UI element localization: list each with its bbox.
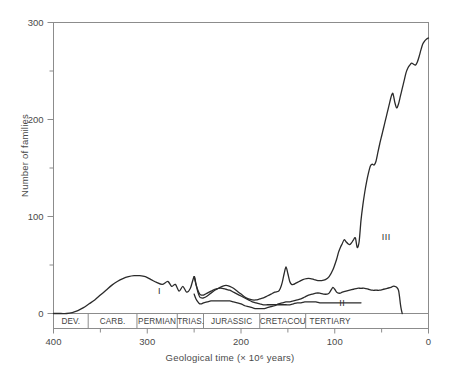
period-label-jurassic: JURASSIC [204,315,260,328]
fauna-annotation-iii: III [376,232,396,242]
fauna-annotation-ii: II [332,298,352,308]
x-tick-label: 100 [318,336,352,347]
figure-root: Number of families Geological time (× 10… [0,0,460,384]
y-tick-label: 200 [10,114,44,125]
x-tick-label: 400 [37,336,71,347]
x-axis-title: Geological time (× 10⁶ years) [0,352,460,363]
x-tick-label: 0 [412,336,446,347]
y-tick-label: 100 [10,211,44,222]
y-axis-title: Number of families [19,86,30,226]
y-tick-label: 0 [10,308,44,319]
period-label-carb: CARB. [88,315,137,328]
period-label-dev: DEV. [54,315,89,328]
series-line-modern-fauna [194,286,402,313]
y-tick-label: 300 [10,17,44,28]
period-label-tertiary: TERTIARY [306,315,355,328]
x-tick-label: 200 [224,336,258,347]
period-label-trias: TRIAS. [177,315,203,328]
x-tick-label: 300 [130,336,164,347]
plot-frame [54,23,429,314]
period-label-cretacous: CRETACOUS [260,315,306,328]
period-label-permian: PERMIAN [137,315,177,328]
diversity-chart: Number of families Geological time (× 10… [0,0,460,384]
fauna-annotation-i: I [149,286,169,296]
series-line-total-marine-families [54,38,429,314]
